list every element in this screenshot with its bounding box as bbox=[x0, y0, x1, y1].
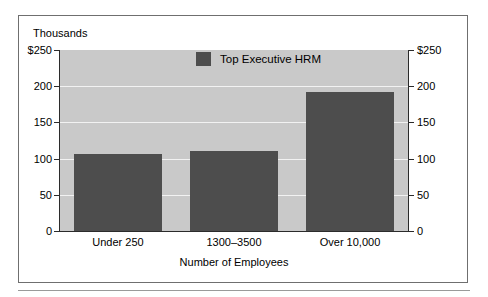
y-tick-left-0 bbox=[54, 231, 59, 232]
y-tick-label-right-200: 200 bbox=[417, 81, 435, 92]
y-tick-label-right-150: 150 bbox=[417, 117, 435, 128]
y-tick-right-150 bbox=[409, 122, 414, 123]
y-axis-right-spine bbox=[408, 50, 409, 232]
legend-swatch-top-executive-hrm bbox=[196, 52, 211, 66]
x-axis-title: Number of Employees bbox=[60, 256, 408, 269]
y-tick-label-right-0: 0 bbox=[417, 226, 423, 237]
y-tick-left-200 bbox=[54, 86, 59, 87]
y-tick-right-100 bbox=[409, 159, 414, 160]
y-tick-right-200 bbox=[409, 86, 414, 87]
y-tick-label-left-200: 200 bbox=[34, 81, 52, 92]
y-tick-label-right-250: $250 bbox=[417, 45, 441, 56]
y-tick-label-left-0: 0 bbox=[46, 226, 52, 237]
y-tick-right-0 bbox=[409, 231, 414, 232]
y-axis-left-spine bbox=[59, 50, 60, 232]
y-axis-unit-caption: Thousands bbox=[33, 27, 87, 40]
y-tick-right-250 bbox=[409, 50, 414, 51]
y-tick-left-50 bbox=[54, 195, 59, 196]
legend-label-top-executive-hrm: Top Executive HRM bbox=[220, 53, 321, 66]
y-tick-left-250 bbox=[54, 50, 59, 51]
gridline-200 bbox=[60, 86, 408, 87]
chart-figure: Thousands 005050100100150150200200$250$2… bbox=[0, 0, 488, 297]
x-category-label-1: Under 250 bbox=[60, 236, 176, 249]
y-tick-left-150 bbox=[54, 122, 59, 123]
x-category-label-2: 1300–3500 bbox=[176, 236, 292, 249]
x-axis-spine bbox=[59, 231, 409, 232]
y-tick-left-100 bbox=[54, 159, 59, 160]
bar-2 bbox=[190, 151, 278, 231]
y-tick-label-left-150: 150 bbox=[34, 117, 52, 128]
y-tick-label-right-50: 50 bbox=[417, 190, 429, 201]
y-tick-label-left-50: 50 bbox=[40, 190, 52, 201]
y-tick-label-left-100: 100 bbox=[34, 154, 52, 165]
bar-3 bbox=[306, 92, 394, 231]
chart-legend: Top Executive HRM bbox=[196, 52, 321, 66]
y-tick-label-right-100: 100 bbox=[417, 154, 435, 165]
y-tick-label-left-250: $250 bbox=[28, 45, 52, 56]
x-category-label-3: Over 10,000 bbox=[292, 236, 408, 249]
y-tick-right-50 bbox=[409, 195, 414, 196]
footer-divider bbox=[18, 290, 470, 291]
bar-1 bbox=[74, 154, 162, 231]
